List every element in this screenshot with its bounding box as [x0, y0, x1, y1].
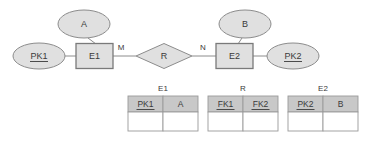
- table-r-body-cell-2: [243, 112, 278, 131]
- attribute-b[interactable]: B: [219, 10, 271, 38]
- attribute-pk2[interactable]: PK2: [267, 43, 319, 69]
- table-r[interactable]: R FK1 FK2: [208, 84, 278, 131]
- table-e1[interactable]: E1 PK1 A: [128, 84, 198, 131]
- table-e1-body-cell-1: [128, 112, 163, 131]
- table-e2-column-label-1: PK2: [297, 99, 313, 109]
- entity-e1-label: E1: [89, 51, 100, 61]
- table-e1-title: E1: [158, 84, 168, 93]
- table-e2-title: E2: [318, 84, 328, 93]
- table-r-body-cell-1: [208, 112, 243, 131]
- table-e1-column-label-2: A: [178, 99, 184, 109]
- attribute-b-label: B: [242, 19, 248, 29]
- relationship-r[interactable]: R: [136, 44, 192, 69]
- cardinality-label-m: M: [118, 43, 125, 52]
- attribute-a-label: A: [81, 19, 87, 29]
- table-e2-body-cell-2: [323, 112, 358, 131]
- attribute-pk2-label: PK2: [284, 51, 301, 61]
- relationship-r-label: R: [161, 51, 168, 61]
- entity-e2-label: E2: [229, 51, 240, 61]
- table-r-title: R: [240, 84, 246, 93]
- cardinality-label-n: N: [200, 43, 206, 52]
- table-r-column-label-2: FK2: [253, 99, 269, 109]
- table-e1-body-cell-2: [163, 112, 198, 131]
- attribute-pk1-label: PK1: [30, 51, 47, 61]
- attribute-a[interactable]: A: [58, 10, 110, 38]
- table-e1-column-label-1: PK1: [137, 99, 153, 109]
- attribute-pk1[interactable]: PK1: [13, 43, 65, 69]
- table-e2-column-label-2: B: [338, 99, 344, 109]
- entity-e2[interactable]: E2: [216, 44, 253, 69]
- er-diagram-canvas: A PK1 B PK2 E1 E2 R: [0, 0, 377, 150]
- table-r-column-label-1: FK1: [218, 99, 234, 109]
- entity-e1[interactable]: E1: [76, 44, 113, 69]
- table-e2[interactable]: E2 PK2 B: [288, 84, 358, 131]
- diagram-svg: A PK1 B PK2 E1 E2 R: [0, 0, 377, 150]
- table-e2-body-cell-1: [288, 112, 323, 131]
